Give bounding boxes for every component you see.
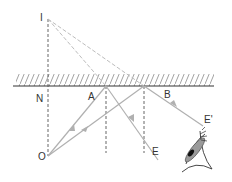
incident-ray-oa [48, 86, 106, 156]
arrow-icon [69, 124, 75, 131]
reflected-ray-ae [106, 86, 158, 160]
reflected-ray-be-prime [144, 86, 203, 126]
label-ray-e-prime: E' [204, 115, 213, 125]
label-ray-e: E [152, 147, 159, 157]
label-object-o: O [38, 152, 46, 162]
incident-ray-ob [48, 86, 144, 156]
label-image-i: I [40, 13, 43, 23]
label-normal-n: N [36, 94, 43, 104]
mirror-hatching [16, 74, 214, 86]
eye-icon [182, 127, 212, 172]
label-point-b: B [164, 90, 171, 100]
reflection-diagram [0, 0, 232, 182]
label-point-a: A [88, 92, 95, 102]
